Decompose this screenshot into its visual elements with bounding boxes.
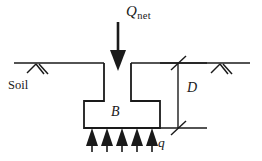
depth-dimension: [160, 56, 207, 135]
soil-hatch-left-icon: [27, 64, 48, 74]
embedment-depth-label: D: [187, 81, 197, 95]
foundation-diagram: Qnet Soil B D q: [0, 0, 262, 161]
footing-width-label: B: [111, 105, 120, 119]
load-subscript: net: [137, 10, 150, 21]
footing-outline: [84, 63, 160, 128]
load-label: Qnet: [126, 4, 151, 22]
bearing-pressure-label: q: [158, 136, 165, 150]
soil-label: Soil: [8, 79, 28, 92]
load-symbol: Q: [126, 3, 137, 19]
pressure-arrows-icon: [86, 128, 158, 152]
diagram-canvas: [0, 0, 262, 161]
soil-hatch-right-icon: [211, 64, 232, 74]
load-arrow-icon: [110, 22, 126, 71]
